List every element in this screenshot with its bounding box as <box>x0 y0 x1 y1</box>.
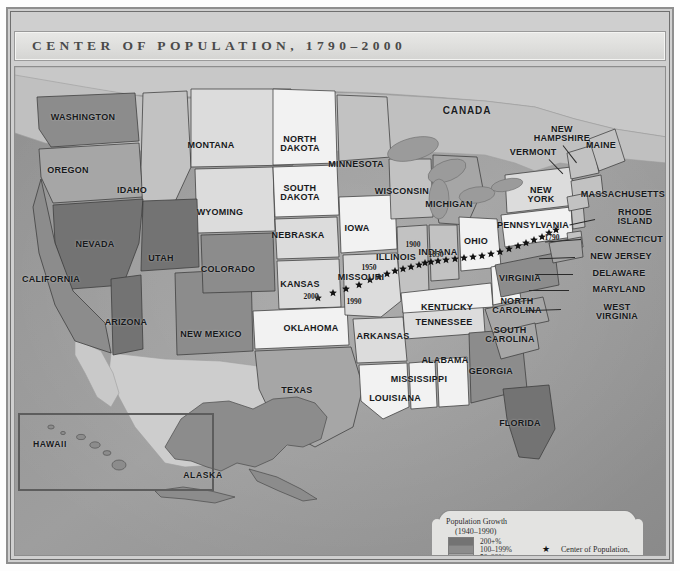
leader-line-de <box>535 274 573 275</box>
state-label: NORTH CAROLINA <box>492 297 542 315</box>
state-label: NEW YORK <box>527 186 554 204</box>
legend-swatch-color <box>448 553 474 556</box>
map-page: CENTER OF POPULATION, 1790–2000 <box>0 0 680 571</box>
state-label: TENNESSEE <box>416 318 473 327</box>
state-label: IDAHO <box>117 186 147 195</box>
state-label: UTAH <box>148 254 173 263</box>
legend-swatch-color <box>448 545 474 553</box>
state-label: MONTANA <box>187 141 234 150</box>
map-title-bar: CENTER OF POPULATION, 1790–2000 <box>14 31 666 61</box>
year-label-1900: 1900 <box>405 240 420 249</box>
state-label: MICHIGAN <box>425 200 473 209</box>
state-label: SOUTH CAROLINA <box>485 326 535 344</box>
year-label-2000: 2000 <box>303 292 318 301</box>
state-label: MISSISSIPPI <box>391 375 447 384</box>
state-label: PENNSYLVANIA <box>497 221 569 230</box>
state-label: NEW HAMPSHIRE <box>534 125 590 143</box>
legend-key-label: Center of Population, 1790–2000 <box>561 544 630 556</box>
state-label: WEST VIRGINIA <box>596 303 638 321</box>
state-label: NEVADA <box>76 240 115 249</box>
state-label: MAINE <box>586 141 616 150</box>
star-icon: ★ <box>542 544 550 554</box>
legend-subtitle: (1940–1990) <box>455 527 629 537</box>
state-label: KANSAS <box>280 280 320 289</box>
state-label: OREGON <box>47 166 89 175</box>
country-label-canada: CANADA <box>443 106 492 115</box>
state-label: TEXAS <box>281 386 312 395</box>
state-label: SOUTH DAKOTA <box>280 184 319 202</box>
state-label: WYOMING <box>197 208 244 217</box>
state-label: VIRGINIA <box>499 274 541 283</box>
state-label: NEW JERSEY <box>590 252 652 261</box>
state-label: MISSOURI <box>338 273 385 282</box>
state-label: WASHINGTON <box>51 113 115 122</box>
map-canvas: WASHINGTONOREGONIDAHOMONTANAWYOMINGNEVAD… <box>14 66 666 556</box>
state-label: DELAWARE <box>592 269 645 278</box>
legend-title: Population Growth (1940–1990) <box>446 517 629 536</box>
state-label: MARYLAND <box>592 285 645 294</box>
state-label: NEBRASKA <box>271 231 324 240</box>
state-label: MASSACHUSETTS <box>581 190 665 199</box>
legend-swatch-row: 50–99% <box>448 553 512 556</box>
state-label: VERMONT <box>510 148 557 157</box>
state-label: ARIZONA <box>105 318 148 327</box>
state-label: LOUISIANA <box>369 394 421 403</box>
state-label: FLORIDA <box>499 419 541 428</box>
state-label: RHODE ISLAND <box>618 208 653 226</box>
inset-label-hawaii: HAWAII <box>33 440 67 449</box>
state-label: IOWA <box>345 224 370 233</box>
state-label: OHIO <box>464 237 488 246</box>
legend-title-text: Population Growth <box>446 517 507 526</box>
state-label: OKLAHOMA <box>284 324 339 333</box>
year-label-1950: 1950 <box>361 263 376 272</box>
page-title: CENTER OF POPULATION, 1790–2000 <box>32 38 406 54</box>
state-label: NEW MEXICO <box>180 330 242 339</box>
leader-line-md <box>529 290 569 291</box>
state-label: WISCONSIN <box>375 187 429 196</box>
state-label: NORTH DAKOTA <box>280 135 319 153</box>
state-label: CALIFORNIA <box>22 275 80 284</box>
legend-swatch-label: 50–99% <box>480 553 505 556</box>
state-label: COLORADO <box>201 265 256 274</box>
state-label: ILLINOIS <box>376 253 416 262</box>
state-label: CONNECTICUT <box>595 235 663 244</box>
year-label-1850: 1850 <box>428 250 443 259</box>
state-label: ARKANSAS <box>356 332 409 341</box>
inset-label-alaska: ALASKA <box>183 471 222 480</box>
legend-key-center-of-population: ★ Center of Population, 1790–2000 <box>542 544 630 556</box>
state-label: KENTUCKY <box>421 303 473 312</box>
map-legend: Population Growth (1940–1990) 200+%100–1… <box>438 511 637 556</box>
state-label: MINNESOTA <box>328 160 384 169</box>
state-label: GEORGIA <box>469 367 513 376</box>
state-label: ALABAMA <box>421 356 468 365</box>
year-label-1990: 1990 <box>346 297 361 306</box>
